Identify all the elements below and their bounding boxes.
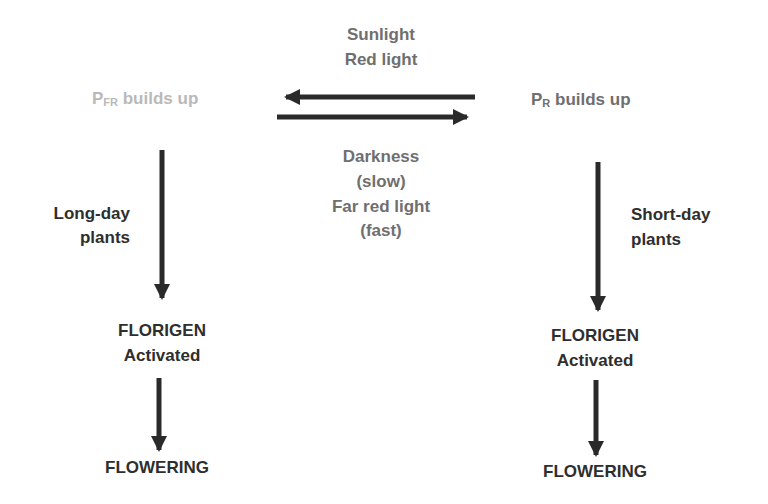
short-day-label-line1: Short-day	[631, 203, 710, 227]
pfr-prefix: P	[92, 89, 103, 108]
long-day-label-line1: Long-day	[30, 202, 130, 226]
long-day-label-line2: plants	[30, 226, 130, 250]
right-florigen-line1: FLORIGEN	[551, 324, 639, 348]
top-condition-line2: Red light	[345, 48, 418, 72]
left-florigen-line2: Activated	[124, 344, 201, 368]
right-flowering: FLOWERING	[543, 460, 647, 484]
top-condition-line1: Sunlight	[347, 23, 415, 47]
bottom-condition-line3: Far red light	[332, 195, 430, 219]
left-florigen-line1: FLORIGEN	[118, 319, 206, 343]
bottom-condition-line2: (slow)	[356, 170, 405, 194]
left-flowering: FLOWERING	[105, 456, 209, 480]
short-day-label-line2: plants	[631, 228, 681, 252]
bottom-condition-line4: (fast)	[360, 219, 402, 243]
pfr-suffix: builds up	[118, 89, 198, 108]
pr-prefix: P	[531, 90, 542, 109]
right-florigen-line2: Activated	[557, 349, 634, 373]
bottom-condition-line1: Darkness	[343, 145, 420, 169]
arrows-layer	[0, 0, 768, 504]
pr-state: PR builds up	[531, 88, 631, 115]
pfr-state: PFR builds up	[92, 87, 198, 114]
pfr-subscript: FR	[103, 96, 118, 108]
pr-suffix: builds up	[550, 90, 630, 109]
